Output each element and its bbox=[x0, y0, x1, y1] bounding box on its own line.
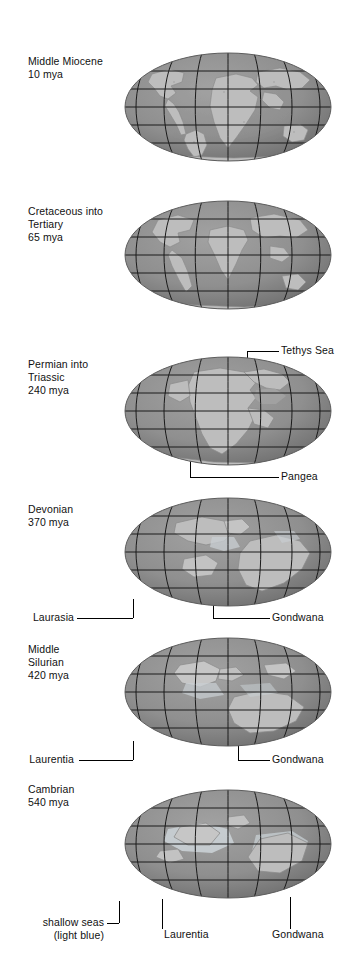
era-line-2: Triassic bbox=[28, 371, 65, 383]
globe-middle-silurian bbox=[124, 637, 332, 747]
paleogeography-figure: Middle Miocene10 mya bbox=[0, 0, 359, 975]
era-label-middle-silurian: MiddleSilurian420 mya bbox=[28, 643, 69, 682]
panel-cambrian: Cambrian540 mya shallow seas(light blue)… bbox=[0, 775, 359, 975]
globe-middle-miocene bbox=[124, 52, 332, 162]
globe-cretaceous-tertiary bbox=[124, 200, 332, 310]
annotation-laurentia-cambrian: Laurentia bbox=[164, 928, 209, 941]
era-line-2: Tertiary bbox=[28, 218, 63, 230]
era-line-2: 10 mya bbox=[28, 68, 63, 80]
globe-svg-devonian bbox=[124, 497, 332, 607]
era-label-cambrian: Cambrian540 mya bbox=[28, 783, 74, 809]
leader-shallow-seas-vertical bbox=[119, 901, 120, 923]
era-line-1: Cambrian bbox=[28, 783, 74, 795]
era-line-3: 65 mya bbox=[28, 231, 63, 243]
leader-pangea-horizontal bbox=[190, 477, 279, 478]
globe-svg-middle-miocene bbox=[124, 52, 332, 162]
leader-shallow-seas-horizontal bbox=[107, 923, 119, 924]
era-line-2: 370 mya bbox=[28, 516, 69, 528]
panel-middle-miocene: Middle Miocene10 mya bbox=[0, 0, 359, 170]
era-label-cretaceous-tertiary: Cretaceous intoTertiary65 mya bbox=[28, 205, 103, 244]
annotation-laurentia-silurian: Laurentia bbox=[6, 753, 74, 766]
annotation-gondwana-cambrian: Gondwana bbox=[272, 928, 324, 941]
panel-permian-triassic: Permian intoTriassic240 mya Tethys Sea P… bbox=[0, 330, 359, 495]
annotation-gondwana-silurian: Gondwana bbox=[272, 753, 324, 766]
era-line-2: 540 mya bbox=[28, 796, 69, 808]
era-line-1: Middle bbox=[28, 643, 60, 655]
era-line-1: Permian into bbox=[28, 358, 88, 370]
era-line-1: Devonian bbox=[28, 503, 73, 515]
era-label-middle-miocene: Middle Miocene10 mya bbox=[28, 55, 103, 81]
leader-tethys-horizontal bbox=[247, 351, 279, 352]
era-line-1: Middle Miocene bbox=[28, 55, 103, 67]
globe-svg-cambrian bbox=[124, 789, 332, 899]
globe-cambrian bbox=[124, 789, 332, 899]
era-line-2: Silurian bbox=[28, 656, 64, 668]
annotation-pangea: Pangea bbox=[281, 470, 318, 483]
leader-gondwana-cambrian-vertical bbox=[290, 897, 291, 929]
globe-svg-cretaceous-tertiary bbox=[124, 200, 332, 310]
leader-laurentia-horizontal bbox=[79, 760, 133, 761]
globe-permian-triassic bbox=[124, 356, 332, 466]
era-line-3: 420 mya bbox=[28, 669, 69, 681]
shallow-seas-line-2: (light blue) bbox=[54, 929, 104, 941]
panel-devonian: Devonian370 mya Laurasia Gondwana bbox=[0, 495, 359, 635]
era-line-3: 240 mya bbox=[28, 384, 69, 396]
era-label-permian-triassic: Permian intoTriassic240 mya bbox=[28, 358, 88, 397]
panel-cretaceous-tertiary: Cretaceous intoTertiary65 mya bbox=[0, 185, 359, 330]
annotation-gondwana-devonian: Gondwana bbox=[272, 611, 324, 624]
leader-gondwana-horizontal bbox=[213, 618, 270, 619]
era-line-1: Cretaceous into bbox=[28, 205, 103, 217]
leader-laurentia-cambrian-vertical bbox=[162, 899, 163, 929]
globe-svg-middle-silurian bbox=[124, 637, 332, 747]
globe-svg-permian-triassic bbox=[124, 356, 332, 466]
panel-middle-silurian: MiddleSilurian420 mya Laurentia Gondwana bbox=[0, 635, 359, 775]
era-label-devonian: Devonian370 mya bbox=[28, 503, 73, 529]
globe-devonian bbox=[124, 497, 332, 607]
annotation-shallow-seas: shallow seas(light blue) bbox=[4, 916, 104, 942]
annotation-laurasia: Laurasia bbox=[8, 611, 74, 624]
leader-laurasia-horizontal bbox=[77, 618, 133, 619]
leader-gondwana-horizontal bbox=[238, 760, 270, 761]
shallow-seas-line-1: shallow seas bbox=[43, 916, 104, 928]
